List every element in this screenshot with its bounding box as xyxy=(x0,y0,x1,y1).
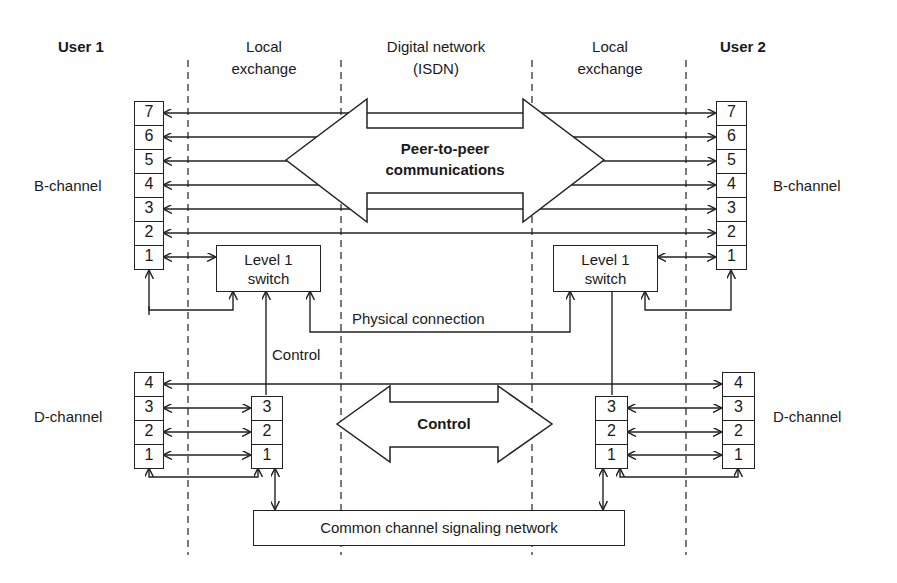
level1-switch-left: Level 1 switch xyxy=(216,245,321,292)
d-level-3: 3 xyxy=(722,396,755,421)
d-level-2: 2 xyxy=(251,420,283,445)
d-level-3: 3 xyxy=(595,396,628,421)
d-level-1: 1 xyxy=(595,444,628,469)
b-channel-label-right: B-channel xyxy=(773,177,841,195)
user1-label: User 1 xyxy=(58,38,104,56)
d-channel-label-right: D-channel xyxy=(773,408,841,426)
b-level-3: 3 xyxy=(134,197,164,222)
control-label: Control xyxy=(272,346,320,364)
d-level-3: 3 xyxy=(251,396,283,421)
b-level-6: 6 xyxy=(134,125,164,150)
switch-left-line1: Level 1 xyxy=(217,250,320,269)
b-level-5: 5 xyxy=(716,149,747,174)
b-level-5: 5 xyxy=(134,149,164,174)
d-level-2: 2 xyxy=(722,420,755,445)
d-level-1: 1 xyxy=(251,444,283,469)
local-exchange-left-line1: Local xyxy=(214,38,314,56)
level1-switch-right: Level 1 switch xyxy=(553,245,658,292)
peer-to-peer-line1: Peer-to-peer xyxy=(360,140,530,158)
physical-connection-label: Physical connection xyxy=(352,310,485,328)
switch-right-line2: switch xyxy=(554,269,657,288)
b-level-3: 3 xyxy=(716,197,747,222)
diagram-lines xyxy=(0,0,897,583)
ccs-network-box: Common channel signaling network xyxy=(253,510,625,546)
control-arrow-label: Control xyxy=(394,415,494,433)
local-exchange-left-line2: exchange xyxy=(214,60,314,78)
b-level-1: 1 xyxy=(716,245,747,270)
b-level-7: 7 xyxy=(716,101,747,126)
switch-right-line1: Level 1 xyxy=(554,250,657,269)
switch-left-line2: switch xyxy=(217,269,320,288)
peer-to-peer-line2: communications xyxy=(350,161,540,179)
b-channel-label-left: B-channel xyxy=(34,177,102,195)
d-level-1: 1 xyxy=(134,444,164,469)
d-level-4: 4 xyxy=(134,372,164,397)
d-level-2: 2 xyxy=(134,420,164,445)
d-level-2: 2 xyxy=(595,420,628,445)
local-exchange-right-line1: Local xyxy=(560,38,660,56)
d-channel-label-left: D-channel xyxy=(34,408,102,426)
user2-label: User 2 xyxy=(720,38,766,56)
local-exchange-right-line2: exchange xyxy=(560,60,660,78)
d-level-1: 1 xyxy=(722,444,755,469)
b-level-4: 4 xyxy=(716,173,747,198)
b-level-2: 2 xyxy=(716,221,747,246)
b-level-2: 2 xyxy=(134,221,164,246)
b-level-7: 7 xyxy=(134,101,164,126)
b-level-6: 6 xyxy=(716,125,747,150)
d-level-4: 4 xyxy=(722,372,755,397)
digital-network-line2: (ISDN) xyxy=(366,60,506,78)
digital-network-line1: Digital network xyxy=(366,38,506,56)
b-level-1: 1 xyxy=(134,245,164,270)
b-level-4: 4 xyxy=(134,173,164,198)
d-level-3: 3 xyxy=(134,396,164,421)
